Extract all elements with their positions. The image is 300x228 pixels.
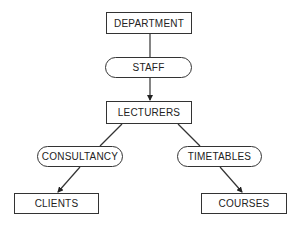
node-courses: COURSES: [201, 193, 287, 214]
node-department: DEPARTMENT: [106, 12, 192, 34]
edge-timetables-courses: [220, 167, 242, 192]
edge-consultancy-clients: [58, 167, 80, 192]
node-lecturers: LECTURERS: [106, 101, 192, 124]
node-label: STAFF: [133, 62, 165, 73]
node-label: DEPARTMENT: [114, 18, 184, 29]
node-consultancy: CONSULTANCY: [37, 146, 123, 167]
node-label: TIMETABLES: [188, 151, 252, 162]
edge-lecturers-timetables: [178, 124, 200, 146]
node-staff: STAFF: [105, 57, 192, 78]
node-label: CONSULTANCY: [42, 151, 118, 162]
node-label: COURSES: [219, 198, 270, 209]
node-label: LECTURERS: [118, 107, 180, 118]
node-clients: CLIENTS: [14, 193, 99, 214]
edge-lecturers-consultancy: [100, 124, 122, 146]
node-label: CLIENTS: [35, 198, 79, 209]
node-timetables: TIMETABLES: [177, 146, 262, 167]
